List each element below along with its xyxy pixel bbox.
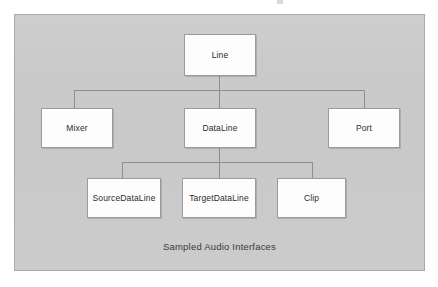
connector-riser-to-dataline <box>219 148 220 163</box>
class-node-targetdataline[interactable]: TargetDataLine <box>182 178 256 218</box>
class-node-dataline-label: DataLine <box>202 124 237 133</box>
connector-dataline-to-sourcedataline <box>122 162 123 178</box>
connector-dataline-to-clip <box>312 162 313 178</box>
diagram-caption: Sampled Audio Interfaces <box>15 241 424 252</box>
class-node-line[interactable]: Line <box>184 34 256 76</box>
class-node-mixer[interactable]: Mixer <box>41 108 113 148</box>
class-node-line-label: Line <box>212 51 229 60</box>
class-node-clip[interactable]: Clip <box>277 178 346 218</box>
diagram-stage: Line Mixer DataLine Port SourceDataLine … <box>0 0 438 287</box>
class-node-clip-label: Clip <box>304 194 319 203</box>
connector-bus-bottom <box>122 162 313 163</box>
class-node-dataline[interactable]: DataLine <box>184 108 256 148</box>
connector-line-to-port <box>364 90 365 108</box>
connector-line-to-dataline <box>219 90 220 108</box>
class-node-sourcedataline-label: SourceDataLine <box>92 194 155 203</box>
connector-dataline-to-targetdataline <box>219 162 220 178</box>
class-node-port-label: Port <box>356 124 372 133</box>
class-node-mixer-label: Mixer <box>66 124 88 133</box>
scan-artifact <box>277 0 283 4</box>
connector-riser-to-line <box>219 76 220 91</box>
class-node-sourcedataline[interactable]: SourceDataLine <box>87 178 161 218</box>
class-node-targetdataline-label: TargetDataLine <box>189 194 249 203</box>
connector-line-to-mixer <box>74 90 75 108</box>
diagram-panel: Line Mixer DataLine Port SourceDataLine … <box>14 14 425 271</box>
class-node-port[interactable]: Port <box>328 108 400 148</box>
